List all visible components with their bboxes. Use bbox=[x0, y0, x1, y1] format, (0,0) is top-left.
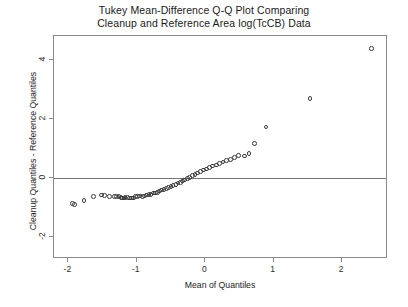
data-point bbox=[264, 125, 269, 130]
data-point bbox=[308, 96, 313, 101]
x-axis-tick-label: -2 bbox=[64, 264, 72, 274]
y-axis-tick-label: 4 bbox=[37, 53, 47, 65]
x-axis-label: Mean of Quantiles bbox=[53, 280, 387, 290]
x-axis-tick-label: 2 bbox=[339, 264, 344, 274]
x-axis-tick-label: -1 bbox=[132, 264, 140, 274]
data-point bbox=[236, 153, 241, 158]
chart-title: Tukey Mean-Difference Q-Q Plot Comparing… bbox=[0, 4, 408, 30]
data-point bbox=[242, 154, 247, 159]
data-point bbox=[247, 151, 252, 156]
x-axis-tick bbox=[67, 258, 68, 262]
plot-frame bbox=[53, 35, 387, 258]
chart-title-line-2: Cleanup and Reference Area log(TcCB) Dat… bbox=[0, 17, 408, 30]
data-point bbox=[252, 141, 257, 146]
x-axis-tick bbox=[341, 258, 342, 262]
y-axis-label: Cleanup Quantiles - Reference Quantiles bbox=[28, 56, 38, 246]
qq-plot-figure: Tukey Mean-Difference Q-Q Plot Comparing… bbox=[0, 0, 408, 307]
y-axis-tick-label: 0 bbox=[37, 171, 47, 183]
plot-area bbox=[54, 36, 386, 257]
y-axis-tick-label: 2 bbox=[37, 112, 47, 124]
data-point bbox=[82, 198, 87, 203]
y-axis-tick bbox=[49, 59, 53, 60]
x-axis-tick bbox=[273, 258, 274, 262]
y-axis-tick bbox=[49, 118, 53, 119]
data-point bbox=[72, 202, 77, 207]
x-axis-tick bbox=[136, 258, 137, 262]
chart-title-line-1: Tukey Mean-Difference Q-Q Plot Comparing bbox=[0, 4, 408, 17]
data-point bbox=[369, 46, 374, 51]
data-point bbox=[91, 194, 96, 199]
x-axis-tick-label: 0 bbox=[202, 264, 207, 274]
x-axis-tick bbox=[204, 258, 205, 262]
y-axis-tick bbox=[49, 236, 53, 237]
y-axis-tick-label: -2 bbox=[37, 230, 47, 242]
x-axis-tick-label: 1 bbox=[270, 264, 275, 274]
zero-reference-line bbox=[54, 178, 386, 179]
y-axis-tick bbox=[49, 177, 53, 178]
